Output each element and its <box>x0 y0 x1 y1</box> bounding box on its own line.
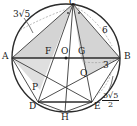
fraction-denominator: 2 <box>102 100 119 109</box>
point-label-a: A <box>2 52 9 61</box>
measure-label-cb: 6 <box>102 26 108 35</box>
fraction-numerator: 3√5 <box>102 92 119 100</box>
fraction-3sqrt5-over-2: 3√5 2 <box>102 92 119 109</box>
point-label-q: Q <box>80 69 87 78</box>
point-label-f: F <box>45 47 51 56</box>
leader-pointer-3sqrt5 <box>24 18 33 33</box>
measure-label-ac: 3√5 <box>13 10 30 19</box>
point-label-e: E <box>94 102 101 111</box>
point-label-g: G <box>78 47 85 56</box>
point-label-o: O <box>61 47 68 56</box>
point-label-d: D <box>29 102 36 111</box>
measure-ac-radicand: 5 <box>24 9 30 19</box>
segment-chord-ae <box>12 58 92 102</box>
angle-mark-right-icon <box>78 12 80 14</box>
point-label-h: H <box>61 113 69 122</box>
point-label-b: B <box>124 52 131 61</box>
measure-label-gb: 3 <box>103 61 109 70</box>
angle-mark-left-icon <box>67 12 69 14</box>
geometry-diagram: A B C D E F G H O P Q 3√5 6 3 3√5 2 <box>0 0 137 126</box>
dot-center-o <box>65 57 68 60</box>
fraction-num-radicand: 5 <box>113 91 118 100</box>
measure-label-be: 3√5 2 <box>102 92 119 109</box>
point-label-p: P <box>32 83 38 92</box>
point-label-c: C <box>69 0 76 7</box>
